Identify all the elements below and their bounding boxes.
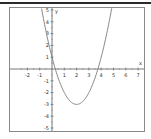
chart-plot: -2-1123456754321-1-2-3-4-5 x y bbox=[0, 0, 151, 139]
x-tick-label: 3 bbox=[87, 72, 90, 78]
x-tick-label: 4 bbox=[100, 72, 103, 78]
plot-frame bbox=[10, 8, 145, 132]
y-tick-label: -1 bbox=[44, 78, 49, 84]
y-tick-label: -3 bbox=[44, 101, 49, 107]
axes bbox=[10, 8, 144, 131]
y-tick-label: -2 bbox=[44, 89, 49, 95]
y-tick-label: -4 bbox=[44, 113, 49, 119]
y-tick-label: 5 bbox=[46, 7, 49, 13]
x-tick-label: 6 bbox=[124, 72, 127, 78]
y-tick-label: 1 bbox=[46, 54, 49, 60]
y-tick-label: -5 bbox=[44, 125, 49, 131]
x-tick-label: -1 bbox=[37, 72, 42, 78]
x-tick-label: -2 bbox=[25, 72, 30, 78]
x-tick-label: 1 bbox=[63, 72, 66, 78]
x-tick-label: 2 bbox=[75, 72, 78, 78]
y-axis-label: y bbox=[55, 8, 58, 15]
y-tick-label: 4 bbox=[46, 19, 49, 25]
x-tick-label: 5 bbox=[112, 72, 115, 78]
x-tick-label: 7 bbox=[137, 72, 140, 78]
x-axis-label: x bbox=[139, 60, 142, 66]
